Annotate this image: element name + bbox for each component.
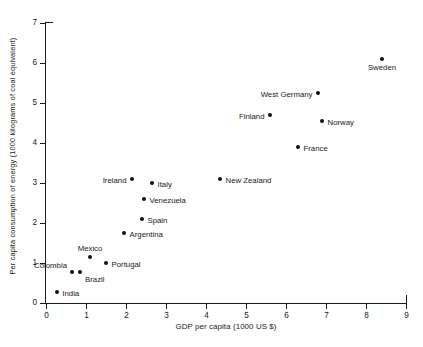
data-point (218, 177, 222, 181)
data-point (150, 181, 154, 185)
x-axis-line (45, 303, 406, 304)
data-point-label: Ireland (103, 175, 127, 184)
y-tick-label-0: 0 (32, 298, 37, 307)
data-point (104, 261, 108, 265)
y-tick-3: 3 (40, 183, 46, 184)
y-tick-2: 2 (40, 223, 46, 224)
y-tick-4: 4 (40, 143, 46, 144)
data-point-label: Italy (158, 179, 172, 188)
y-tick-label-3: 3 (32, 178, 37, 187)
x-tick-label-3: 3 (162, 311, 171, 320)
y-tick-label-4: 4 (32, 138, 37, 147)
data-point-label: India (62, 288, 79, 297)
y-axis-title: Per capita consumption of energy (1000 k… (8, 38, 17, 275)
data-point (268, 113, 272, 117)
x-tick-label-0: 0 (42, 311, 51, 320)
x-tick-2: 2 (126, 303, 127, 309)
x-tick-6: 6 (286, 303, 287, 309)
data-point-label: Spain (148, 215, 168, 224)
data-point (88, 255, 92, 259)
x-tick-label-4: 4 (202, 311, 211, 320)
x-tick-label-1: 1 (82, 311, 91, 320)
data-point-label: Sweden (368, 63, 396, 72)
data-point-label: West Germany (261, 89, 313, 98)
x-tick-label-6: 6 (282, 311, 291, 320)
y-tick-label-6: 6 (32, 58, 37, 67)
y-axis-top-cap (45, 22, 53, 23)
data-point (55, 290, 59, 294)
x-tick-4: 4 (206, 303, 207, 309)
data-point-label: New Zealand (226, 175, 272, 184)
data-point (380, 57, 384, 61)
data-point-label: Venezuela (150, 195, 186, 204)
data-point-label: Mexico (78, 244, 103, 253)
x-tick-8: 8 (366, 303, 367, 309)
y-tick-label-5: 5 (32, 98, 37, 107)
y-tick-7: 7 (40, 23, 46, 24)
data-point-label: Colombia (34, 261, 67, 270)
x-tick-0: 0 (46, 303, 47, 309)
data-point-label: Brazil (85, 275, 105, 284)
data-point-label: France (304, 143, 328, 152)
data-point-label: Norway (328, 117, 354, 126)
y-tick-label-7: 7 (32, 18, 37, 27)
data-point (142, 197, 146, 201)
x-tick-label-2: 2 (122, 311, 131, 320)
data-point-label: Portugal (112, 259, 141, 268)
x-axis-title: GDP per capita (1000 US $) (46, 322, 406, 331)
x-tick-label-7: 7 (322, 311, 331, 320)
data-point (316, 91, 320, 95)
plot-area: 01234567 0123456789 SwedenWest GermanyFi… (46, 23, 406, 303)
data-point (130, 177, 134, 181)
y-tick-label-2: 2 (32, 218, 37, 227)
x-tick-label-9: 9 (402, 311, 411, 320)
x-tick-7: 7 (326, 303, 327, 309)
x-tick-label-8: 8 (362, 311, 371, 320)
y-tick-5: 5 (40, 103, 46, 104)
data-point (70, 270, 74, 274)
data-point (296, 145, 300, 149)
x-tick-5: 5 (246, 303, 247, 309)
y-tick-6: 6 (40, 63, 46, 64)
x-tick-label-5: 5 (242, 311, 251, 320)
x-tick-3: 3 (166, 303, 167, 309)
y-axis-title-container: Per capita consumption of energy (1000 k… (0, 0, 24, 312)
data-point (140, 217, 144, 221)
data-point-label: Finland (239, 111, 265, 120)
scatter-plot-figure: Per capita consumption of energy (1000 k… (0, 0, 423, 347)
x-tick-1: 1 (86, 303, 87, 309)
data-point (78, 270, 82, 274)
x-tick-9: 9 (406, 303, 407, 309)
data-point (320, 119, 324, 123)
data-point (122, 231, 126, 235)
data-point-label: Argentina (130, 229, 163, 238)
